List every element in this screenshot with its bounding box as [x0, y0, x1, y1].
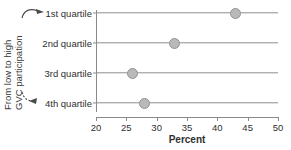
- x-axis-tick-50: [278, 117, 279, 121]
- y-axis-label-2nd-quartile: 2nd quartile: [42, 38, 92, 49]
- data-point-1st-quartile[interactable]: [230, 8, 241, 19]
- y-axis-labels: 1st quartile 2nd quartile 3rd quartile 4…: [34, 8, 94, 112]
- row-line-3rd-quartile: [96, 72, 278, 73]
- x-axis-tick-40: [217, 117, 218, 121]
- x-axis-tick-35: [187, 117, 188, 121]
- data-point-3rd-quartile[interactable]: [127, 68, 138, 79]
- y-axis-label-1st-quartile: 1st quartile: [46, 8, 92, 19]
- x-axis-tick-label-25: 25: [121, 122, 132, 133]
- plot-area: [96, 8, 278, 112]
- x-axis-tick-label-35: 35: [182, 122, 193, 133]
- y-axis-line: [96, 10, 97, 112]
- data-point-2nd-quartile[interactable]: [169, 38, 180, 49]
- x-axis-tick-label-50: 50: [273, 122, 284, 133]
- axis-annotation: From low to high GVC participation: [2, 4, 36, 110]
- x-axis-tick-label-40: 40: [212, 122, 223, 133]
- x-axis-tick-25: [126, 117, 127, 121]
- chart-container: From low to high GVC participation 1st q…: [0, 0, 291, 150]
- row-line-4th-quartile: [96, 102, 278, 103]
- x-axis-tick-30: [157, 117, 158, 121]
- x-axis-tick-label-30: 30: [151, 122, 162, 133]
- x-axis-tick-45: [248, 117, 249, 121]
- x-axis-tick-label-45: 45: [242, 122, 253, 133]
- x-axis-tick-20: [96, 117, 97, 121]
- x-axis-title: Percent: [96, 134, 278, 145]
- x-axis-tick-label-20: 20: [91, 122, 102, 133]
- y-axis-label-4th-quartile: 4th quartile: [45, 98, 92, 109]
- row-line-1st-quartile: [96, 12, 278, 13]
- axis-annotation-line-1: From low to high: [3, 40, 13, 110]
- axis-annotation-line-2: GVC participation: [14, 36, 24, 110]
- y-axis-label-3rd-quartile: 3rd quartile: [44, 68, 92, 79]
- data-point-4th-quartile[interactable]: [139, 98, 150, 109]
- row-line-2nd-quartile: [96, 42, 278, 43]
